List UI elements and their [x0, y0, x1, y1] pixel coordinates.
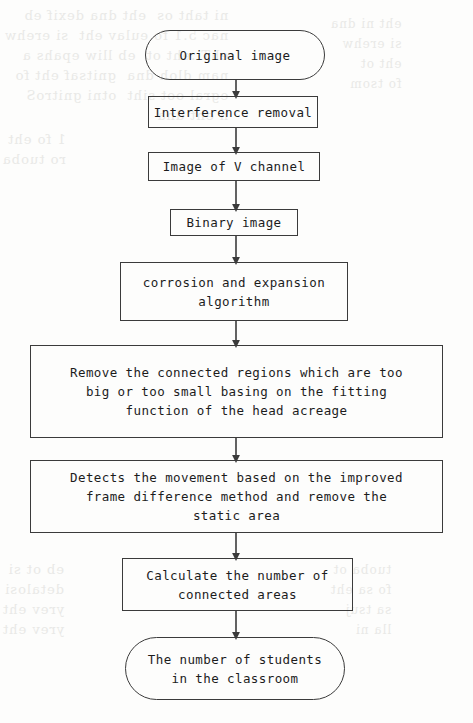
flowchart-page: ni taht os eht dna dexif eb nac 5.1 fo e… — [0, 0, 473, 723]
node-number-of-students[interactable]: The number of students in the classroom — [125, 637, 345, 700]
bleed-through-bottom-left: eb ot si detalosi yrev eht yrev eht — [2, 560, 64, 640]
node-interference-removal[interactable]: Interference removal — [148, 96, 318, 128]
node-calculate-connected-areas[interactable]: Calculate the number of connected areas — [122, 558, 353, 611]
node-image-of-v-channel[interactable]: Image of V channel — [148, 152, 320, 181]
bleed-through-top-right: eht ni dna si erehw eht ot fo tsom — [330, 14, 401, 94]
node-binary-image[interactable]: Binary image — [170, 209, 298, 236]
node-remove-connected-regions[interactable]: Remove the connected regions which are t… — [30, 345, 443, 438]
node-detect-movement[interactable]: Detects the movement based on the improv… — [30, 460, 443, 533]
node-corrosion-expansion-algorithm[interactable]: corrosion and expansion algorithm — [120, 262, 348, 321]
node-original-image[interactable]: Original image — [145, 30, 325, 80]
bleed-through-middle-left: 1 fo eht ro tuoba — [2, 130, 66, 170]
